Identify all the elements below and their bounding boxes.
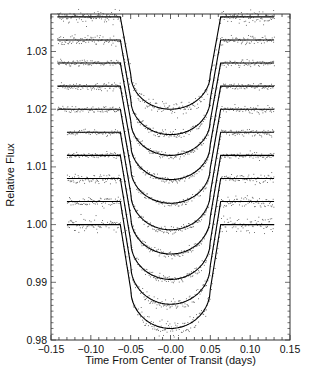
data-point <box>229 18 230 19</box>
data-point <box>136 83 137 84</box>
data-point <box>182 255 183 256</box>
data-point <box>149 105 150 106</box>
data-point <box>136 189 137 190</box>
data-point <box>210 299 211 300</box>
data-point <box>82 227 83 228</box>
data-point <box>76 202 77 203</box>
data-point <box>242 176 243 177</box>
data-point <box>165 129 166 130</box>
data-point <box>76 83 77 84</box>
data-point <box>104 64 105 65</box>
data-point <box>159 136 160 137</box>
data-point <box>250 200 251 201</box>
data-point <box>98 108 99 109</box>
data-point <box>96 89 97 90</box>
data-point <box>164 232 165 233</box>
data-point <box>141 167 142 168</box>
data-point <box>225 176 226 177</box>
data-point <box>180 156 181 157</box>
data-point <box>248 154 249 155</box>
data-point <box>91 221 92 222</box>
data-point <box>233 226 234 227</box>
data-point <box>130 63 131 64</box>
data-point <box>104 42 105 43</box>
data-point <box>258 85 259 86</box>
y-tick-label: 1.00 <box>27 218 48 230</box>
data-point <box>176 181 177 182</box>
data-point <box>81 214 82 215</box>
data-point <box>218 196 219 197</box>
data-point <box>143 120 144 121</box>
data-point <box>94 112 95 113</box>
data-point <box>136 258 137 259</box>
data-point <box>156 280 157 281</box>
data-point <box>89 204 90 205</box>
data-point <box>60 41 61 42</box>
data-point <box>74 176 75 177</box>
data-point <box>189 273 190 274</box>
data-point <box>133 155 134 156</box>
data-point <box>166 181 167 182</box>
data-point <box>153 107 154 108</box>
data-point <box>159 304 160 305</box>
data-point <box>104 107 105 108</box>
data-point <box>194 198 195 199</box>
data-point <box>103 64 104 65</box>
data-point <box>125 131 126 132</box>
data-point <box>114 203 115 204</box>
data-point <box>194 150 195 151</box>
data-point <box>93 37 94 38</box>
data-point <box>194 151 195 152</box>
data-point <box>162 177 163 178</box>
data-point <box>111 60 112 61</box>
data-point <box>160 157 161 158</box>
data-point <box>247 65 248 66</box>
data-point <box>246 64 247 65</box>
data-point <box>80 111 81 112</box>
data-point <box>83 64 84 65</box>
data-point <box>83 15 84 16</box>
data-point <box>234 104 235 105</box>
data-point <box>187 228 188 229</box>
data-point <box>145 325 146 326</box>
data-point <box>125 156 126 157</box>
data-point <box>153 301 154 302</box>
data-point <box>199 171 200 172</box>
data-point <box>120 222 121 223</box>
data-point <box>231 84 232 85</box>
data-point <box>179 282 180 283</box>
data-point <box>114 152 115 153</box>
data-point <box>90 134 91 135</box>
data-point <box>202 241 203 242</box>
data-point <box>236 17 237 18</box>
data-point <box>81 43 82 44</box>
data-point <box>189 296 190 297</box>
data-point <box>147 193 148 194</box>
data-point <box>224 19 225 20</box>
model-curve-8 <box>67 178 274 279</box>
data-point <box>195 243 196 244</box>
data-point <box>188 201 189 202</box>
data-point <box>158 204 159 205</box>
data-point <box>171 301 172 302</box>
data-point <box>134 85 135 86</box>
data-point <box>136 140 137 141</box>
data-point <box>190 296 191 297</box>
data-point <box>96 131 97 132</box>
data-point <box>186 133 187 134</box>
data-point <box>243 157 244 158</box>
data-point <box>233 180 234 181</box>
data-point <box>229 84 230 85</box>
data-point <box>272 129 273 130</box>
data-point <box>98 61 99 62</box>
data-point <box>228 65 229 66</box>
data-point <box>265 36 266 37</box>
data-point <box>203 314 204 315</box>
data-point <box>227 107 228 108</box>
data-point <box>155 278 156 279</box>
data-point <box>197 149 198 150</box>
data-point <box>173 298 174 299</box>
data-point <box>115 9 116 10</box>
data-point <box>261 223 262 224</box>
data-point <box>269 157 270 158</box>
